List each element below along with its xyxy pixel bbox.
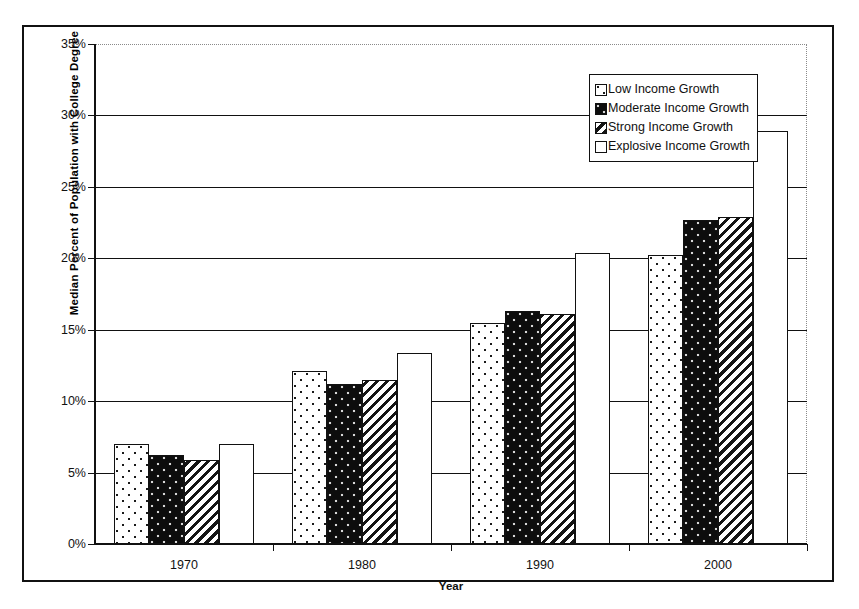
legend-item: Low Income Growth [595,80,750,99]
x-axis-category-label: 1990 [526,558,554,572]
bar [575,253,610,544]
plot-border-top [95,44,807,45]
bar [292,371,327,544]
plot-border-right [806,44,807,544]
y-tick-label: 20% [61,251,86,265]
legend-swatch-icon [595,141,607,153]
y-tick-label: 25% [61,180,86,194]
y-tick-mark [88,544,95,545]
bar [470,323,505,544]
legend-item-label: Low Income Growth [608,83,719,96]
x-tick-mark [807,544,808,551]
y-tick-mark [88,187,95,188]
legend-item: Strong Income Growth [595,118,750,137]
bar [149,455,184,544]
legend-swatch-icon [595,103,607,115]
bar [753,131,788,544]
bar [648,255,683,544]
y-tick-mark [88,330,95,331]
x-tick-mark [273,544,274,551]
y-tick-mark [88,44,95,45]
bar [114,444,149,544]
bar [683,220,718,544]
chart-frame: Median Percent of Population with Colleg… [22,25,834,582]
legend-item-label: Strong Income Growth [608,121,733,134]
bar [540,314,575,544]
legend-item: Moderate Income Growth [595,99,750,118]
y-tick-label: 30% [61,108,86,122]
x-axis-category-label: 1980 [348,558,376,572]
x-tick-mark [629,544,630,551]
y-tick-label: 35% [61,37,86,51]
y-tick-mark [88,115,95,116]
bar [505,311,540,544]
legend-item: Explosive Income Growth [595,137,750,156]
chart-page: Median Percent of Population with Colleg… [0,0,859,609]
y-axis-line [94,44,96,544]
y-tick-label: 5% [68,466,86,480]
bar [397,353,432,544]
gridline [95,187,807,188]
y-tick-label: 10% [61,394,86,408]
y-tick-label: 0% [68,537,86,551]
bar [184,460,219,544]
legend-swatch-icon [595,122,607,134]
legend-swatch-icon [595,84,607,96]
bar [718,217,753,544]
y-tick-mark [88,473,95,474]
legend-item-label: Explosive Income Growth [608,140,750,153]
bar [327,384,362,544]
x-tick-mark [451,544,452,551]
bar [362,380,397,544]
bar [219,444,254,544]
y-tick-mark [88,401,95,402]
x-axis-title: Year [95,580,807,592]
legend-item-label: Moderate Income Growth [608,102,749,115]
x-axis-category-label: 1970 [170,558,198,572]
x-axis-category-label: 2000 [704,558,732,572]
chart-legend: Low Income GrowthModerate Income GrowthS… [589,74,758,162]
y-tick-mark [88,258,95,259]
y-tick-label: 15% [61,323,86,337]
